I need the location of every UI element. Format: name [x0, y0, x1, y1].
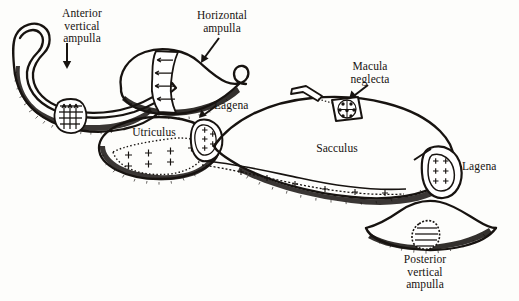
endolymphatic-duct	[291, 86, 338, 104]
label-lagena-sacculus: Lagena	[462, 160, 508, 173]
lagena-sacculus-shape	[414, 147, 462, 199]
anatomical-figure: Anterior vertical ampulla Horizontal amp…	[0, 0, 519, 301]
macula-neglecta-shape	[332, 97, 362, 121]
label-anterior-vertical-ampulla: Anterior vertical ampulla	[44, 7, 120, 45]
anterior-vertical-ampulla-crista	[54, 99, 86, 133]
horizontal-ampulla-crista	[152, 51, 178, 113]
posterior-vertical-ampulla-crista	[412, 221, 440, 250]
label-horizontal-ampulla: Horizontal ampulla	[186, 9, 258, 34]
pointer-horizontal-ampulla	[201, 38, 219, 63]
pointer-anterior-vertical-ampulla	[63, 43, 71, 69]
label-lagena-utriculus: Lagena	[214, 99, 260, 112]
label-macula-neglecta: Macula neglecta	[338, 60, 402, 85]
label-sacculus: Sacculus	[308, 142, 366, 155]
label-posterior-vertical-ampulla: Posterior vertical ampulla	[387, 253, 463, 291]
label-utriculus: Utriculus	[124, 126, 184, 139]
